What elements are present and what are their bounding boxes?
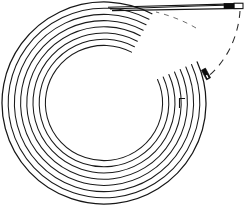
ferrule-band — [224, 3, 234, 8]
tube-tip-segment — [234, 3, 243, 8]
coil-figure-root — [0, 0, 248, 208]
coiled-tube-drawing — [0, 0, 248, 208]
